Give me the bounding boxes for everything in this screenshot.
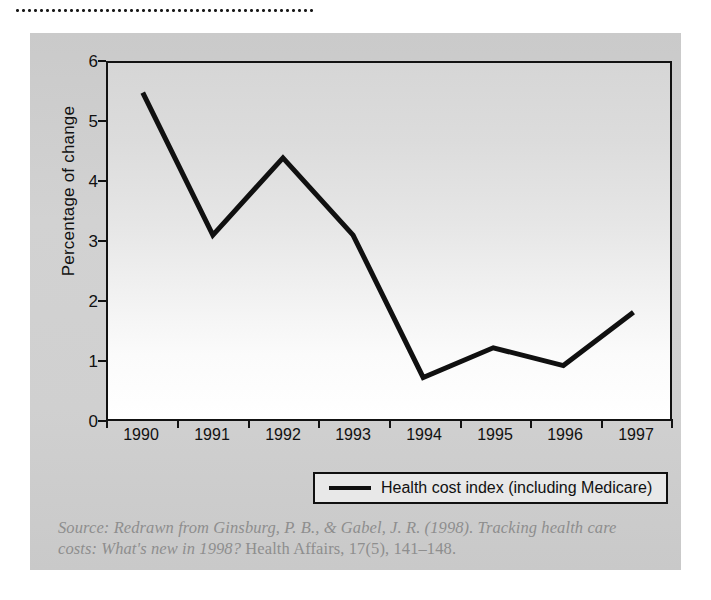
y-tick-label-1: 1: [72, 353, 98, 370]
source-line-1: Source: Redrawn from Ginsburg, P. B., & …: [58, 518, 537, 537]
legend-label: Health cost index (including Medicare): [381, 479, 652, 497]
x-tick-label-1995: 1995: [460, 426, 530, 444]
chart-legend: Health cost index (including Medicare): [313, 472, 668, 504]
y-tick-mark-1: [98, 360, 106, 362]
y-tick-label-3: 3: [72, 233, 98, 250]
y-tick-label-0: 0: [72, 413, 98, 430]
x-tick-label-1991: 1991: [177, 426, 247, 444]
series-line-health-cost-index: [143, 93, 634, 378]
dotted-divider-rule: [16, 9, 316, 12]
x-tick-mark-8: [671, 419, 673, 428]
y-tick-mark-4: [98, 180, 106, 182]
y-tick-label-6: 6: [72, 53, 98, 70]
y-tick-mark-6: [98, 60, 106, 62]
y-tick-mark-2: [98, 300, 106, 302]
legend-line-swatch: [329, 486, 371, 490]
line-series-svg: [108, 63, 670, 419]
x-tick-label-1992: 1992: [248, 426, 318, 444]
y-tick-mark-3: [98, 240, 106, 242]
x-tick-label-1993: 1993: [318, 426, 388, 444]
source-line-2-roman: Health Affairs, 17(5), 141–148.: [241, 539, 456, 558]
y-tick-mark-5: [98, 120, 106, 122]
plot-area: [106, 61, 672, 421]
y-axis-ticks: 6 5 4 3 2 1 0: [68, 61, 98, 421]
x-tick-label-1990: 1990: [106, 426, 176, 444]
y-tick-mark-0: [98, 420, 106, 422]
y-tick-label-2: 2: [72, 293, 98, 310]
x-tick-label-1994: 1994: [389, 426, 459, 444]
source-note: Source: Redrawn from Ginsburg, P. B., & …: [58, 517, 658, 559]
y-tick-label-4: 4: [72, 173, 98, 190]
x-tick-label-1996: 1996: [530, 426, 600, 444]
x-tick-label-1997: 1997: [601, 426, 671, 444]
figure-panel: Percentage of change 6 5 4 3 2 1 0 1990 …: [30, 33, 681, 570]
y-tick-label-5: 5: [72, 113, 98, 130]
